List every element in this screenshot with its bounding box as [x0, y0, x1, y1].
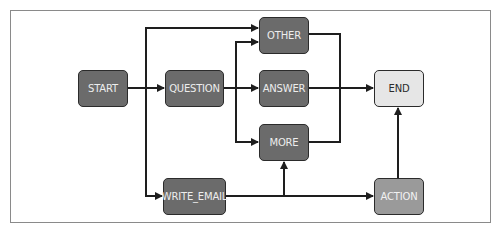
node-other-label: OTHER — [267, 30, 301, 41]
node-answer-label: ANSWER — [263, 83, 306, 94]
node-question-label: QUESTION — [169, 83, 220, 94]
node-more: MORE — [259, 124, 309, 161]
node-write-email-label: WRITE_EMAIL — [162, 191, 227, 202]
edge-start-write-email — [146, 88, 162, 196]
node-more-label: MORE — [270, 137, 299, 148]
node-end: END — [374, 70, 424, 107]
node-action: ACTION — [374, 178, 424, 215]
node-action-label: ACTION — [381, 191, 418, 202]
node-other: OTHER — [259, 17, 309, 54]
edge-more-end — [308, 88, 340, 142]
edge-question-other — [236, 42, 258, 88]
node-answer: ANSWER — [259, 70, 309, 107]
node-question: QUESTION — [165, 70, 224, 107]
edge-question-more — [236, 88, 258, 142]
node-start: START — [78, 70, 128, 107]
node-start-label: START — [88, 83, 118, 94]
edges-layer — [0, 0, 502, 229]
node-end-label: END — [389, 83, 410, 94]
edge-other-end — [308, 34, 340, 88]
node-write-email: WRITE_EMAIL — [163, 178, 226, 215]
